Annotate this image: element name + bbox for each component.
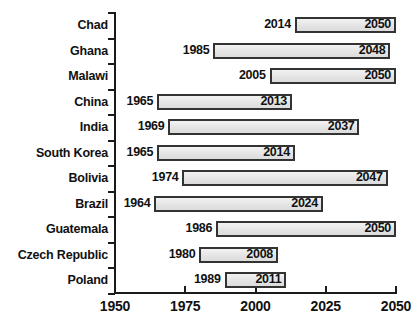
chart-row: India19692037 (0, 115, 419, 139)
bar-end-year-label: 2047 (182, 170, 387, 186)
chart-row: Malawi20052050 (0, 64, 419, 88)
x-axis-tick-label: 2000 (240, 298, 270, 314)
plot-area: 19501975200020252050 Chad20142050Ghana19… (0, 0, 419, 330)
x-axis-tick-label: 2050 (381, 298, 411, 314)
bar-start-year-label: 2014 (0, 17, 291, 33)
chart-row: Guatemala19862050 (0, 217, 419, 241)
bar-end-year-label: 2050 (216, 221, 396, 237)
bar-end-year-label: 2011 (225, 272, 287, 288)
x-axis-tick-label: 2025 (311, 298, 341, 314)
bar-end-year-label: 2050 (295, 17, 396, 33)
bar-start-year-label: 1986 (0, 221, 212, 237)
bar-end-year-label: 2008 (199, 247, 278, 263)
bar-start-year-label: 1989 (0, 272, 221, 288)
bar-end-year-label: 2050 (270, 68, 396, 84)
bar-end-year-label: 2014 (157, 145, 295, 161)
bar-end-year-label: 2048 (213, 43, 390, 59)
bar-end-year-label: 2013 (157, 94, 292, 110)
chart-row: Brazil19642024 (0, 192, 419, 216)
bar-start-year-label: 1964 (0, 196, 150, 212)
range-bar-chart: 19501975200020252050 Chad20142050Ghana19… (0, 0, 419, 330)
chart-row: South Korea19652014 (0, 141, 419, 165)
chart-row: Ghana19852048 (0, 39, 419, 63)
chart-row: Poland19892011 (0, 268, 419, 292)
bar-start-year-label: 1974 (0, 170, 178, 186)
bar-start-year-label: 1980 (0, 247, 195, 263)
bar-start-year-label: 1985 (0, 43, 209, 59)
x-axis-tick-label: 1975 (170, 298, 200, 314)
bar-end-year-label: 2037 (168, 119, 359, 135)
bar-start-year-label: 2005 (0, 68, 266, 84)
x-axis-tick-label: 1950 (100, 298, 130, 314)
bar-start-year-label: 1969 (0, 119, 164, 135)
chart-row: China19652013 (0, 90, 419, 114)
chart-row: Chad20142050 (0, 13, 419, 37)
chart-row: Bolivia19742047 (0, 166, 419, 190)
bar-start-year-label: 1965 (0, 94, 153, 110)
chart-row: Czech Republic19802008 (0, 243, 419, 267)
bar-end-year-label: 2024 (154, 196, 323, 212)
bar-start-year-label: 1965 (0, 145, 153, 161)
